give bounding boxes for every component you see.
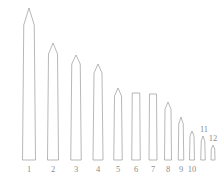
obelisk-label-11: 11 bbox=[200, 124, 208, 134]
obelisk-label-6: 6 bbox=[134, 164, 138, 174]
obelisk-shape-11 bbox=[201, 136, 206, 160]
obelisk-label-9: 9 bbox=[179, 164, 183, 174]
obelisk-shape-6 bbox=[132, 93, 141, 160]
obelisk-label-7: 7 bbox=[151, 164, 155, 174]
obelisk-label-5: 5 bbox=[116, 164, 120, 174]
obelisk-label-12: 12 bbox=[209, 133, 218, 143]
obelisk-shape-5 bbox=[114, 88, 123, 160]
obelisk-label-10: 10 bbox=[188, 164, 197, 174]
obelisk-shape-8 bbox=[165, 102, 172, 160]
obelisk-label-1: 1 bbox=[27, 164, 31, 174]
obelisk-label-2: 2 bbox=[51, 164, 55, 174]
obelisk-shape-1 bbox=[23, 8, 36, 160]
obelisk-label-3: 3 bbox=[74, 164, 78, 174]
obelisk-shape-7 bbox=[149, 94, 157, 160]
obelisk-label-8: 8 bbox=[166, 164, 170, 174]
obelisk-shapes-canvas bbox=[0, 0, 221, 183]
obelisk-shape-4 bbox=[93, 64, 103, 160]
obelisk-comparison-figure: 123456789101112 bbox=[0, 0, 221, 183]
obelisk-shape-12 bbox=[211, 145, 215, 160]
obelisk-shape-9 bbox=[178, 117, 184, 160]
obelisk-shape-10 bbox=[190, 131, 195, 160]
obelisk-shape-2 bbox=[48, 43, 59, 160]
obelisk-label-4: 4 bbox=[96, 164, 100, 174]
obelisk-shape-3 bbox=[71, 55, 82, 160]
